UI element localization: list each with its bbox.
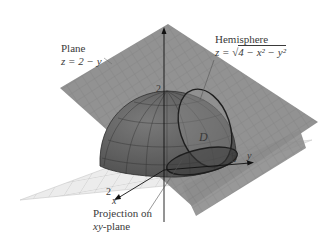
- plane-equation: z = 2 − y: [61, 55, 102, 67]
- y-axis-label: y: [247, 150, 251, 162]
- diagram-svg: [0, 0, 326, 247]
- x-axis-label: x: [112, 195, 116, 207]
- figure-canvas: Plane z = 2 − y Hemisphere z = √4 − x² −…: [0, 0, 326, 247]
- y-tick-label: 2: [231, 153, 236, 165]
- projection-xy: xy: [93, 220, 103, 232]
- hemisphere-equation: z = √4 − x² − y²: [215, 46, 286, 58]
- x-tick-label: 2: [106, 186, 111, 198]
- hemisphere-equation-prefix: z =: [215, 46, 232, 58]
- hemisphere-radicand: 4 − x² − y²: [238, 45, 286, 58]
- hemisphere-title: Hemisphere: [215, 33, 268, 45]
- region-d-label: D: [199, 131, 208, 143]
- projection-label-line2: xy-plane: [93, 220, 130, 232]
- z-tick-label: 2: [156, 83, 161, 95]
- plane-title: Plane: [61, 42, 85, 54]
- projection-plane-word: -plane: [103, 220, 130, 232]
- projection-label-line1: Projection on: [93, 207, 152, 219]
